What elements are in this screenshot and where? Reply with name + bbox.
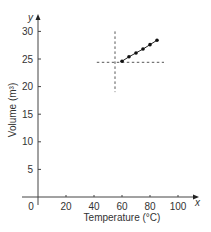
- series-line: [122, 40, 157, 61]
- x-tick-label: 20: [60, 201, 72, 212]
- chart: 02040608010051015202530 Temperature (°C)…: [0, 0, 211, 232]
- x-axis-letter: x: [194, 197, 201, 208]
- y-axis-letter: y: [27, 12, 34, 23]
- y-tick-label: 25: [22, 54, 34, 65]
- y-tick-label: 15: [22, 109, 34, 120]
- y-axis-title: Volume (m³): [7, 83, 18, 137]
- x-tick-label: 80: [144, 201, 156, 212]
- axes: [22, 14, 199, 205]
- ticks: 02040608010051015202530: [22, 26, 187, 212]
- y-tick-label: 5: [27, 164, 33, 175]
- data-point: [148, 43, 152, 47]
- data-point: [120, 59, 124, 63]
- x-tick-label: 60: [116, 201, 128, 212]
- y-tick-label: 30: [22, 26, 34, 37]
- x-tick-label: 100: [170, 201, 187, 212]
- data-series: [120, 38, 159, 63]
- data-point: [127, 55, 131, 59]
- x-tick-label: 40: [88, 201, 100, 212]
- y-tick-label: 20: [22, 81, 34, 92]
- x-axis-title: Temperature (°C): [84, 212, 161, 223]
- y-axis-arrow-icon: [36, 14, 41, 20]
- x-tick-label: 0: [28, 201, 34, 212]
- data-point: [134, 51, 138, 55]
- reference-lines: [97, 31, 164, 92]
- data-point: [141, 47, 145, 51]
- data-point: [155, 38, 159, 42]
- y-tick-label: 10: [22, 136, 34, 147]
